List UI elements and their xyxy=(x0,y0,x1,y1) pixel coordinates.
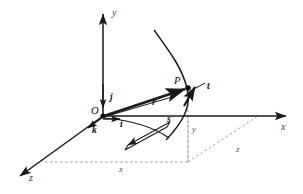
coordinate-diagram: y x z i j k O P r t s x y z xyxy=(0,0,303,194)
z-axis-line xyxy=(20,116,103,176)
position-vector-r xyxy=(104,89,185,116)
diagram-canvas xyxy=(0,0,303,194)
arc-length-arrow xyxy=(125,122,170,150)
k-unit-vector xyxy=(88,117,103,128)
dashed-z-segment xyxy=(188,116,258,162)
position-vector-r-edge xyxy=(104,97,172,117)
point-p-marker xyxy=(185,85,191,91)
origin-point-marker xyxy=(100,113,105,118)
tangent-vector-t-tick xyxy=(192,83,205,90)
trajectory-curve xyxy=(154,30,188,140)
